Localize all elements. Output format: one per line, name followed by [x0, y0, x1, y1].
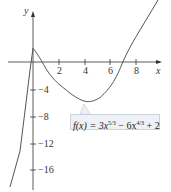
y-axis-label: y — [23, 5, 29, 16]
exponent: 5/3 — [108, 120, 116, 126]
x-axis-arrow-icon — [156, 60, 162, 64]
y-tick-label: −8 — [38, 111, 49, 122]
function-graph: 2 4 6 8 x y −4 −8 −12 −16 — [0, 0, 171, 192]
x-tick-label: 2 — [57, 65, 62, 76]
exponent: 4/3 — [136, 120, 144, 126]
x-axis-label: x — [155, 65, 161, 76]
x-tick-label: 8 — [134, 65, 139, 76]
y-tick-label: −16 — [38, 164, 54, 175]
function-curve — [10, 0, 158, 187]
formula-part: − 6x — [116, 120, 137, 131]
y-tick-label: −4 — [38, 84, 49, 95]
x-tick-label: 4 — [83, 65, 88, 76]
y-tick-label: −12 — [38, 138, 54, 149]
x-tick-label: 6 — [108, 65, 113, 76]
function-label: f(x) = 3x5/3 − 6x4/3 + 2 — [70, 114, 160, 130]
formula-part: f(x) = 3x — [73, 120, 108, 131]
y-axis-arrow-icon — [31, 11, 35, 17]
formula-part: + 2 — [144, 120, 160, 131]
callout-pointer — [80, 104, 90, 114]
